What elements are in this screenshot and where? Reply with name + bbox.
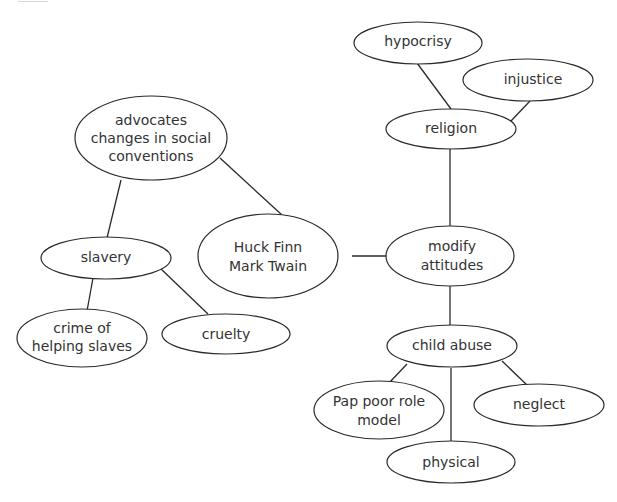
edge-advocates-slavery [107, 180, 121, 238]
node-label-line: advocates [115, 112, 187, 128]
concept-map: Huck Finn Mark Twain advocates changes i… [0, 0, 617, 502]
node-label-line: injustice [504, 71, 563, 87]
node-label-line: helping slaves [32, 338, 132, 354]
node-label-line: hypocrisy [384, 33, 452, 49]
node-label-line: model [357, 412, 401, 428]
node-religion: religion [386, 109, 516, 149]
edge-slavery-cruelty [160, 268, 208, 314]
node-cruelty: cruelty [162, 314, 290, 354]
node-advocates: advocates changes in social conventions [75, 96, 227, 180]
node-label-line: Mark Twain [229, 258, 307, 274]
node-label-line: modify [428, 238, 476, 254]
node-neglect: neglect [474, 384, 604, 426]
node-physical: physical [387, 441, 515, 483]
node-label-line: Pap poor role [333, 393, 425, 409]
edge-child-abuse-neglect [502, 361, 528, 386]
node-label-line: changes in social [91, 130, 211, 146]
node-label-line: physical [422, 454, 479, 470]
edge-child-abuse-pap [389, 364, 407, 383]
node-slavery: slavery [41, 237, 171, 279]
node-label-line: Huck Finn [234, 239, 302, 255]
node-label-line: cruelty [202, 326, 251, 342]
node-label-line: neglect [513, 396, 566, 412]
node-huck-finn: Huck Finn Mark Twain [198, 214, 338, 298]
edge-slavery-crime [87, 278, 93, 311]
node-hypocrisy: hypocrisy [354, 22, 482, 64]
node-label-line: slavery [81, 249, 132, 265]
edge-religion-injustice [510, 101, 530, 122]
node-label-line: child abuse [412, 337, 492, 353]
node-pap-poor-role-model: Pap poor role model [314, 381, 444, 439]
node-label-line: religion [425, 120, 477, 136]
node-injustice: injustice [463, 59, 593, 101]
edge-advocates-huck [220, 158, 282, 215]
node-label-line: conventions [108, 148, 193, 164]
node-label-line: attitudes [421, 257, 484, 273]
node-crime-of-helping-slaves: crime of helping slaves [17, 309, 147, 367]
node-child-abuse: child abuse [387, 325, 517, 367]
node-modify-attitudes: modify attitudes [386, 226, 514, 286]
edge-religion-hypocrisy [417, 63, 451, 109]
node-label-line: crime of [53, 320, 112, 336]
